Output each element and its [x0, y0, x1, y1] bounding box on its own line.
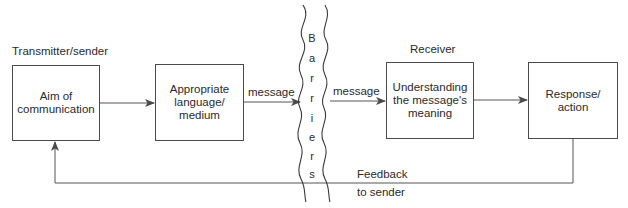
appropriate-medium-box: Appropriate language/ medium	[155, 64, 244, 141]
message-label-2: message	[333, 85, 380, 97]
aim-of-communication-box: Aim of communication	[12, 65, 100, 141]
box-line: communication	[17, 103, 94, 116]
feedback-label: Feedback	[357, 168, 408, 180]
barrier-letter: s	[306, 168, 318, 180]
barrier-letter: r	[306, 72, 318, 84]
box-line: Understanding	[393, 81, 468, 94]
box-line: Appropriate	[170, 83, 229, 96]
box-line: medium	[170, 109, 229, 122]
barrier-letter: B	[306, 32, 318, 44]
receiver-label: Receiver	[410, 43, 455, 55]
barrier-letter: a	[306, 52, 318, 64]
box-line: Response/	[546, 88, 601, 101]
box-line: the message's	[393, 94, 468, 107]
box-line: action	[546, 101, 601, 114]
understanding-box: Understanding the message's meaning	[386, 62, 474, 139]
barrier-right-wave	[322, 5, 330, 202]
barrier-left-wave	[298, 5, 306, 202]
message-label-1: message	[248, 86, 295, 98]
barrier-letter: r	[306, 92, 318, 104]
to-sender-label: to sender	[357, 186, 405, 198]
barrier-letter: i	[306, 112, 318, 124]
sender-label: Transmitter/sender	[12, 45, 108, 57]
barrier-letter: e	[306, 131, 318, 143]
barrier-letter: r	[306, 150, 318, 162]
response-action-box: Response/ action	[528, 62, 618, 139]
communication-diagram: Transmitter/sender Receiver Aim of commu…	[0, 0, 628, 208]
box-line: language/	[170, 96, 229, 109]
box-line: meaning	[393, 107, 468, 120]
box-line: Aim of	[17, 90, 94, 103]
